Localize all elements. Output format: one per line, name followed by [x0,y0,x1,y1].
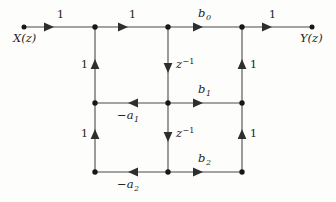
gain-label-b1: b1 [198,84,210,96]
node-top-left [92,24,97,29]
b1-base: b [198,82,205,96]
arrowhead-delay-top [164,63,173,73]
arrowhead-b2 [193,168,203,177]
gain-label-a2: −a2 [117,179,139,191]
arrowhead-left-lower-up [91,129,100,139]
node-bottom-center [165,169,170,174]
gain-label-a1: −a1 [117,110,139,122]
arrowhead-a2 [128,168,138,177]
b0-base: b [198,6,205,20]
delay-upper-exponent: −1 [183,57,195,66]
b2-subscript: 2 [206,158,211,167]
node-middle-center [165,100,170,105]
gain-label-left-lower: 1 [81,128,88,139]
gain-label-top-second: 1 [129,9,136,20]
node-top-right [239,24,244,29]
gain-label-right-lower: 1 [250,128,257,139]
arrowhead-left-upper-up [91,59,100,69]
node-bottom-left [92,169,97,174]
arrowhead-output-branch [262,23,272,32]
b2-base: b [198,151,205,165]
input-terminal-label: X(z) [13,33,36,45]
arrowhead-right-upper-up [238,59,247,69]
signal-flow-graph [0,0,336,202]
a1-sign-base: −a [117,108,134,122]
delay-upper-base: z [176,57,182,71]
node-input-terminal [22,25,27,30]
a2-subscript: 2 [134,184,139,193]
arrowhead-a1 [128,99,138,108]
figure-canvas: X(z) Y(z) 1 1 1 b0 b1 b2 −a1 −a2 z−1 z−1… [0,0,336,202]
input-label-base: X [13,31,21,45]
gain-label-input-branch: 1 [57,9,64,20]
arrowhead-b1 [193,99,203,108]
arrowhead-b0 [193,23,203,32]
gain-label-output-branch: 1 [269,9,276,20]
node-middle-left [92,100,97,105]
node-top-middle [165,24,170,29]
gain-label-right-upper: 1 [250,59,257,70]
a1-subscript: 1 [134,115,139,124]
gain-label-b0: b0 [198,8,210,20]
delay-lower-exponent: −1 [183,126,195,135]
arrowhead-top-gain-1 [118,23,128,32]
a2-sign-base: −a [117,177,134,191]
output-label-close: ) [318,31,323,45]
node-middle-right [239,100,244,105]
output-label-base: Y [300,31,308,45]
output-terminal-label: Y(z) [300,33,323,45]
node-bottom-right [239,169,244,174]
delay-label-lower: z−1 [176,128,194,140]
node-output-terminal [310,25,315,30]
input-label-close: ) [32,31,37,45]
arrowhead-input-branch [44,23,54,32]
gain-label-left-upper: 1 [81,59,88,70]
b1-subscript: 1 [206,89,211,98]
gain-label-b2: b2 [198,153,210,165]
delay-lower-base: z [176,126,182,140]
b0-subscript: 0 [206,13,211,22]
delay-label-upper: z−1 [176,59,194,71]
arrowhead-delay-bottom [164,132,173,142]
arrowhead-right-lower-up [238,129,247,139]
